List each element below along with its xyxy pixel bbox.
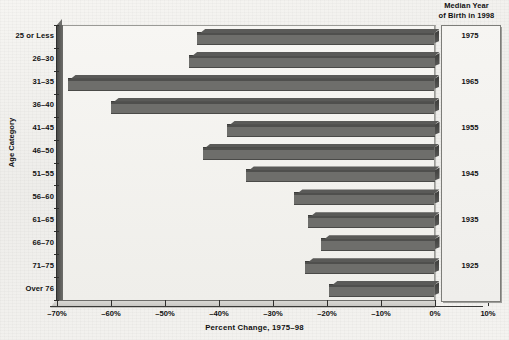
x-axis-title: Percent Change, 1975–98 — [0, 323, 509, 332]
x-axis-tick — [435, 300, 436, 306]
bar-4 — [111, 101, 435, 114]
y-axis-tick — [54, 254, 59, 255]
bar-top-face — [324, 235, 439, 239]
y-axis-label-12: Over 76 — [2, 284, 54, 293]
bar-3 — [68, 78, 435, 91]
x-axis-tick — [57, 300, 58, 306]
bar-top-face — [230, 121, 440, 125]
bar-top-face — [192, 52, 439, 56]
bar-top-face — [297, 189, 439, 193]
median-year-title: Median Year of Birth in 1998 — [424, 1, 509, 21]
x-axis-label-4: –40% — [199, 309, 239, 318]
y-axis-label-9: 61–65 — [2, 215, 54, 224]
bar-12 — [329, 284, 434, 297]
bar-top-face — [114, 98, 440, 102]
x-axis-label-3: –50% — [145, 309, 185, 318]
y-axis-label-8: 56–60 — [2, 192, 54, 201]
bar-9 — [308, 215, 435, 228]
bar-top-face — [249, 166, 440, 170]
bar-1 — [197, 32, 434, 45]
bar-top-face — [332, 281, 439, 285]
bar-11 — [305, 261, 434, 274]
x-axis-tick — [381, 300, 382, 306]
y-axis-tick — [54, 71, 59, 72]
y-axis-tick — [54, 140, 59, 141]
bar-2 — [189, 55, 434, 68]
median-year-label-3: 1955 — [441, 123, 499, 132]
x-axis-tick — [111, 300, 112, 306]
bar-top-face — [311, 212, 440, 216]
median-year-label-6: 1925 — [441, 261, 499, 270]
median-year-label-4: 1945 — [441, 169, 499, 178]
x-axis-label-5: –30% — [253, 309, 293, 318]
bar-top-face — [200, 29, 439, 33]
x-axis-label-8: 0% — [415, 309, 455, 318]
bar-7 — [246, 169, 435, 182]
y-axis-title: Age Category — [7, 108, 16, 178]
y-axis-tick — [54, 94, 59, 95]
y-axis-label-10: 66–70 — [2, 238, 54, 247]
bar-top-face — [206, 144, 440, 148]
bar-10 — [321, 238, 434, 251]
x-axis-label-6: –20% — [307, 309, 347, 318]
bar-6 — [203, 147, 435, 160]
y-axis-tick — [54, 208, 59, 209]
x-axis-label-2: –60% — [91, 309, 131, 318]
y-axis-tick — [54, 163, 59, 164]
median-year-title-line2: of Birth in 1998 — [424, 11, 509, 21]
x-axis-label-9: 10% — [468, 309, 508, 318]
y-axis-tick — [54, 48, 59, 49]
x-axis-label-1: –70% — [37, 309, 77, 318]
median-year-label-1: 1975 — [441, 31, 499, 40]
median-year-title-line1: Median Year — [424, 1, 509, 11]
y-axis-tick — [54, 277, 59, 278]
x-axis-tick — [165, 300, 166, 306]
y-axis-label-3: 31–35 — [2, 77, 54, 86]
x-axis-label-7: –10% — [361, 309, 401, 318]
bar-5 — [227, 124, 435, 137]
y-axis-label-2: 26–30 — [2, 54, 54, 63]
median-year-label-2: 1965 — [441, 77, 499, 86]
bar-top-face — [71, 75, 440, 79]
y-axis-tick — [54, 231, 59, 232]
x-axis-tick — [219, 300, 220, 306]
median-year-label-5: 1935 — [441, 215, 499, 224]
bar-8 — [294, 192, 434, 205]
x-axis-line — [50, 306, 483, 307]
y-axis-tick — [54, 25, 59, 26]
y-axis-label-1: 25 or Less — [2, 31, 54, 40]
y-axis-tick — [54, 185, 59, 186]
bar-top-face — [308, 258, 439, 262]
y-axis-label-11: 71–75 — [2, 261, 54, 270]
y-axis-tick — [54, 117, 59, 118]
x-axis-tick — [327, 300, 328, 306]
x-axis-tick — [273, 300, 274, 306]
